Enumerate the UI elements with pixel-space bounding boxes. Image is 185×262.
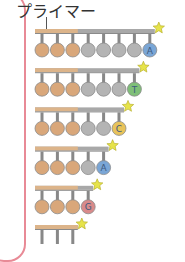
nucleotide-ball — [112, 82, 126, 96]
base-label: C — [116, 124, 122, 134]
nucleotide-ball — [66, 43, 80, 57]
base-label: T — [131, 85, 138, 95]
nucleotide-ball — [97, 82, 111, 96]
primer-bar — [35, 107, 78, 111]
stem — [71, 73, 74, 83]
nucleotide-ball — [112, 43, 126, 57]
nucleotide-ball — [35, 43, 49, 57]
stem — [41, 191, 44, 201]
stem — [102, 73, 105, 83]
stem — [71, 152, 74, 162]
strand-bar-shadow — [35, 33, 155, 34]
stem — [56, 73, 59, 83]
stem — [118, 112, 121, 122]
base-label: A — [147, 46, 154, 56]
stem — [41, 152, 44, 162]
nucleotide-ball — [50, 200, 64, 214]
primer-bar — [35, 186, 78, 190]
nucleotide-ball — [81, 82, 95, 96]
stem — [56, 34, 59, 44]
fluorescent-star-icon — [153, 22, 164, 33]
fluorescent-star-icon — [76, 218, 87, 229]
strand-bar-shadow — [35, 190, 93, 191]
nucleotide-ball — [35, 161, 49, 175]
stem — [87, 34, 90, 44]
nucleotide-ball — [127, 43, 141, 57]
stem — [118, 73, 121, 83]
stem — [102, 34, 105, 44]
nucleotide-ball — [50, 161, 64, 175]
stem — [118, 34, 121, 44]
nucleotide-ball — [35, 200, 49, 214]
stem — [41, 34, 44, 44]
fluorescent-star-icon — [138, 61, 149, 72]
nucleotide-ball — [66, 82, 80, 96]
stem — [133, 34, 136, 44]
base-label: G — [85, 202, 92, 212]
nucleotide-ball — [50, 82, 64, 96]
primer-bar — [35, 29, 78, 33]
stem — [56, 230, 59, 244]
nucleotide-ball — [50, 43, 64, 57]
nucleotide-ball — [35, 121, 49, 135]
stem — [102, 112, 105, 122]
stem — [56, 152, 59, 162]
stem — [41, 73, 44, 83]
primer-bar — [35, 147, 78, 151]
strand-bar-shadow — [35, 151, 109, 152]
stem — [87, 152, 90, 162]
stem — [71, 112, 74, 122]
stem — [87, 191, 90, 201]
strand-bar-shadow — [35, 72, 139, 73]
stem — [71, 230, 74, 244]
stem — [87, 112, 90, 122]
nucleotide-ball — [66, 161, 80, 175]
stem — [41, 112, 44, 122]
stem — [133, 73, 136, 83]
nucleotide-ball — [97, 43, 111, 57]
nucleotide-ball — [81, 161, 95, 175]
fluorescent-star-icon — [107, 140, 118, 151]
nucleotide-ball — [50, 121, 64, 135]
stem — [56, 112, 59, 122]
stem — [71, 191, 74, 201]
stem — [56, 191, 59, 201]
stem — [41, 230, 44, 244]
nucleotide-ball — [81, 43, 95, 57]
nucleotide-ball — [66, 200, 80, 214]
nucleotide-ball — [97, 121, 111, 135]
nucleotide-ball — [66, 121, 80, 135]
stem — [148, 34, 151, 44]
strand-bar-shadow — [35, 111, 124, 112]
strand-bar-shadow — [35, 229, 78, 230]
nucleotide-ball — [81, 121, 95, 135]
base-label: A — [101, 163, 108, 173]
primer-bar — [35, 68, 78, 72]
primer-bar — [35, 225, 78, 229]
fluorescent-star-icon — [92, 179, 103, 190]
stem — [87, 73, 90, 83]
nucleotide-ball — [35, 82, 49, 96]
stem — [102, 152, 105, 162]
stem — [71, 34, 74, 44]
fluorescent-star-icon — [122, 100, 133, 111]
